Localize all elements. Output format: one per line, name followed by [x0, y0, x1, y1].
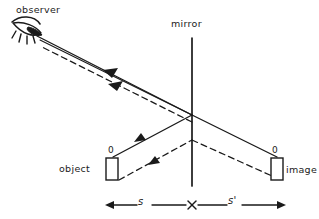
dimension-arrow-right: [277, 201, 286, 209]
image-label: image: [286, 164, 317, 175]
image-top-marker-label: 0: [272, 145, 278, 155]
dimension-line: [105, 201, 286, 209]
ray-diagram-svg: ======= -->: [0, 0, 319, 219]
mirror-label: mirror: [171, 18, 202, 29]
dimension-tick-icon: [188, 201, 196, 209]
image-box-icon: [271, 158, 283, 180]
object-top-marker-label: 0: [108, 145, 114, 155]
observer-eye-icon: [12, 17, 42, 44]
object-label: object: [59, 163, 90, 174]
ray-arrowhead-incident-lower: [148, 156, 160, 165]
object-distance-label: s: [138, 196, 144, 207]
object-box-icon: [106, 158, 118, 180]
ray-object-to-mirror: [113, 115, 192, 157]
ray-diagram-figure: ======= --> observer mirror object image…: [0, 0, 319, 219]
ray-virtual-extension-lower: [192, 140, 272, 176]
observer-label: observer: [16, 4, 60, 15]
ray-second-solid-to-observer: [40, 40, 192, 115]
image-distance-label: s': [228, 195, 237, 206]
